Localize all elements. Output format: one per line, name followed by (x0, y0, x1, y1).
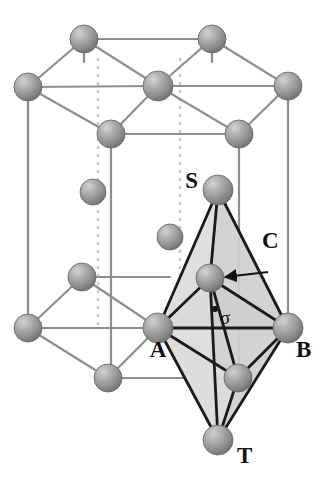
atom-center-C (196, 264, 224, 292)
label-B: B (296, 337, 311, 362)
atom-sphere (97, 120, 125, 148)
atom-bot-back-left (68, 263, 96, 291)
atom-top-left (14, 73, 42, 101)
atom-sphere (94, 364, 122, 392)
atom-bot-front-left (94, 364, 122, 392)
sigma-marker (212, 306, 218, 312)
label-sigma: σ (220, 307, 230, 328)
atom-apex-T (203, 425, 233, 455)
atom-bot-left (14, 314, 42, 342)
atom-apex-S (203, 175, 233, 205)
atom-top-front-left (97, 120, 125, 148)
atom-top-center (143, 71, 173, 101)
label-S: S (185, 168, 198, 193)
atom-sphere (70, 25, 98, 53)
atom-sphere (80, 179, 106, 205)
label-T: T (237, 443, 252, 468)
atom-top-right (274, 72, 302, 100)
atom-eq-front (224, 364, 252, 392)
atom-sphere (196, 264, 224, 292)
atom-sphere (203, 425, 233, 455)
atom-sphere (14, 73, 42, 101)
atom-top-front-right (225, 120, 253, 148)
atom-sphere (224, 364, 252, 392)
atom-sphere (157, 224, 183, 250)
atom-mid-left (80, 179, 106, 205)
atom-top-back-right (198, 25, 226, 53)
lattice-diagram: SCABTσ (0, 0, 328, 489)
label-C: C (262, 228, 279, 253)
atom-sphere (14, 314, 42, 342)
label-A: A (150, 337, 167, 362)
lattice-edge (28, 86, 158, 87)
crystal-structure-figure: SCABTσ (0, 0, 328, 489)
sigma-dot (212, 306, 218, 312)
atom-sphere (274, 72, 302, 100)
atom-mid-inner (157, 224, 183, 250)
atom-sphere (198, 25, 226, 53)
atom-sphere (225, 120, 253, 148)
atom-sphere (143, 71, 173, 101)
atom-top-back-left (70, 25, 98, 53)
atom-sphere (68, 263, 96, 291)
atom-sphere (203, 175, 233, 205)
